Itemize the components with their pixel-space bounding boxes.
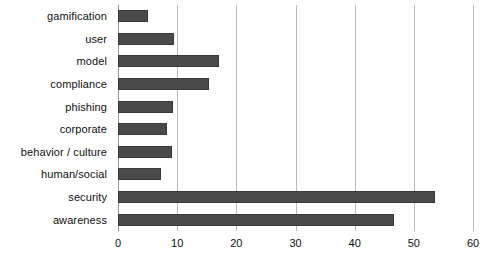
category-label: corporate xyxy=(60,123,113,135)
category-label-cell: user xyxy=(0,28,113,51)
bar-row xyxy=(118,118,473,141)
category-label-cell: behavior / culture xyxy=(0,141,113,164)
bar xyxy=(118,55,219,67)
category-label-cell: human/social xyxy=(0,163,113,186)
bar-row xyxy=(118,50,473,73)
category-label: model xyxy=(77,55,113,67)
bar xyxy=(118,168,161,180)
bar-row xyxy=(118,5,473,28)
bar-row xyxy=(118,163,473,186)
category-label: behavior / culture xyxy=(21,146,113,158)
category-label-cell: model xyxy=(0,50,113,73)
bar xyxy=(118,10,148,22)
value-tick-label: 10 xyxy=(171,236,183,250)
bar-row xyxy=(118,73,473,96)
value-tick-label: 60 xyxy=(467,236,479,250)
category-label: awareness xyxy=(53,214,113,226)
plot-area xyxy=(118,5,473,231)
category-label: compliance xyxy=(50,78,113,90)
category-label: phishing xyxy=(65,101,113,113)
bar-row xyxy=(118,28,473,51)
value-tick-label: 20 xyxy=(230,236,242,250)
value-tick-label: 0 xyxy=(115,236,121,250)
bar xyxy=(118,78,209,90)
category-label: human/social xyxy=(41,168,113,180)
category-label-cell: awareness xyxy=(0,208,113,231)
category-label-cell: compliance xyxy=(0,73,113,96)
value-axis-tick-labels: 0102030405060 xyxy=(118,236,473,256)
category-label-cell: corporate xyxy=(0,118,113,141)
bar xyxy=(118,214,394,226)
bar xyxy=(118,101,173,113)
category-label-cell: security xyxy=(0,186,113,209)
bar-row xyxy=(118,141,473,164)
bar-row xyxy=(118,186,473,209)
bar xyxy=(118,123,167,135)
bar xyxy=(118,191,435,203)
bar-chart: gamificationusermodelcompliancephishingc… xyxy=(0,0,498,269)
value-tick-label: 50 xyxy=(408,236,420,250)
category-axis-labels: gamificationusermodelcompliancephishingc… xyxy=(0,5,113,231)
category-label: gamification xyxy=(47,10,113,22)
category-label: user xyxy=(85,33,113,45)
gridline-60 xyxy=(473,5,474,231)
value-tick-label: 40 xyxy=(349,236,361,250)
value-tick-label: 30 xyxy=(289,236,301,250)
bar-rows xyxy=(118,5,473,231)
category-label: security xyxy=(68,191,113,203)
bar xyxy=(118,33,174,45)
bar xyxy=(118,146,172,158)
bar-row xyxy=(118,95,473,118)
category-label-cell: gamification xyxy=(0,5,113,28)
bar-row xyxy=(118,208,473,231)
category-label-cell: phishing xyxy=(0,95,113,118)
